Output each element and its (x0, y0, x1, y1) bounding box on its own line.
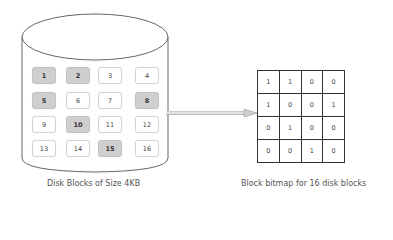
bitmap-row: 0 0 1 0 (258, 140, 345, 163)
disk-block: 8 (135, 92, 159, 109)
block-bitmap-grid: 1 1 0 0 1 0 0 1 0 1 0 0 0 0 1 0 (257, 70, 345, 163)
bitmap-caption: Block bitmap for 16 disk blocks (241, 179, 366, 188)
disk-block: 1 (32, 67, 56, 84)
disk-block: 12 (135, 116, 159, 133)
disk-block: 16 (135, 140, 159, 157)
disk-block: 10 (66, 116, 90, 133)
bitmap-row: 1 1 0 0 (258, 71, 345, 94)
bitmap-cell: 0 (279, 140, 301, 163)
bitmap-cell: 0 (301, 71, 323, 94)
bitmap-row: 0 1 0 0 (258, 117, 345, 140)
bitmap-cell: 1 (279, 117, 301, 140)
disk-block: 15 (98, 140, 122, 157)
bitmap-cell: 0 (258, 117, 280, 140)
disk-block: 13 (32, 140, 56, 157)
disk-block: 7 (98, 92, 122, 109)
disk-block: 11 (98, 116, 122, 133)
bitmap-cell: 0 (323, 71, 345, 94)
disk-block: 3 (98, 67, 122, 84)
bitmap-cell: 1 (258, 71, 280, 94)
bitmap-cell: 0 (301, 94, 323, 117)
bitmap-cell: 0 (279, 94, 301, 117)
bitmap-cell: 1 (323, 94, 345, 117)
bitmap-cell: 1 (279, 71, 301, 94)
disk-block: 6 (66, 92, 90, 109)
bitmap-row: 1 0 0 1 (258, 94, 345, 117)
bitmap-cell: 0 (301, 117, 323, 140)
disk-caption: Disk Blocks of Size 4KB (47, 179, 140, 188)
bitmap-cell: 0 (323, 117, 345, 140)
disk-block: 9 (32, 116, 56, 133)
disk-block: 14 (66, 140, 90, 157)
disk-block: 2 (66, 67, 90, 84)
bitmap-cell: 0 (323, 140, 345, 163)
bitmap-cell: 0 (258, 140, 280, 163)
bitmap-cell: 1 (258, 94, 280, 117)
arrow-right-icon (166, 106, 260, 120)
disk-block: 5 (32, 92, 56, 109)
disk-block: 4 (135, 67, 159, 84)
bitmap-cell: 1 (301, 140, 323, 163)
